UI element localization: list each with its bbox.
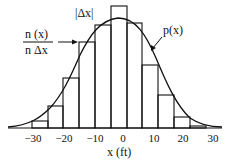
x-tick-label: 30 bbox=[208, 132, 219, 144]
x-tick-label: 20 bbox=[178, 132, 189, 144]
curve-label: p(x) bbox=[163, 23, 183, 38]
x-tick-label: 10 bbox=[149, 132, 160, 144]
ratio-numerator-label: n (x) bbox=[25, 27, 48, 42]
ratio-arrow-head bbox=[72, 40, 78, 45]
curve-arrow bbox=[153, 37, 162, 48]
x-tick-label: −20 bbox=[55, 132, 72, 144]
x-axis-title: x (ft) bbox=[107, 145, 131, 160]
x-tick-label: 0 bbox=[120, 132, 126, 144]
ratio-denominator-label: n Δx bbox=[25, 43, 48, 58]
x-tick-label: −10 bbox=[86, 132, 103, 144]
x-tick-label: −30 bbox=[24, 132, 41, 144]
delta-x-label: |Δx| bbox=[75, 6, 94, 21]
